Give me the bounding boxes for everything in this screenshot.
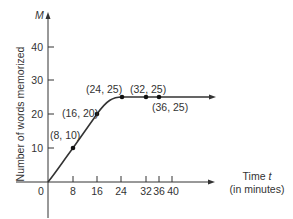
y-tick-label: 30 <box>31 74 43 86</box>
x-axis-label-t: t <box>268 170 272 182</box>
x-axis-label-time: Time <box>243 170 269 182</box>
point-label: (36, 25) <box>152 101 188 113</box>
x-axis-label: Time t <box>243 170 273 182</box>
y-tick-label: 40 <box>31 41 43 53</box>
data-point <box>157 95 162 100</box>
chart: 10 20 30 40 0 8 16 24 32 36 40 (8, 10) (… <box>0 0 293 219</box>
point-label: (24, 25) <box>86 83 122 95</box>
point-label: (8, 10) <box>50 129 80 141</box>
y-tick-label: 20 <box>31 108 43 120</box>
point-label: (32, 25) <box>130 83 166 95</box>
marked-points <box>71 95 162 151</box>
x-tick-label: 36 <box>153 185 165 197</box>
y-tick-label: 10 <box>31 142 43 154</box>
point-label: (16, 20) <box>62 107 98 119</box>
data-point <box>144 95 149 100</box>
x-tick-label: 32 <box>140 185 152 197</box>
y-axis-label: Number of words memorized <box>14 46 26 181</box>
x-ticks: 0 8 16 24 32 36 40 <box>38 176 179 197</box>
x-tick-label: 40 <box>167 185 179 197</box>
data-point <box>71 146 76 151</box>
origin-label: 0 <box>38 185 44 197</box>
curve-arrow-icon <box>209 95 216 100</box>
x-axis-arrow-icon <box>208 180 215 185</box>
x-tick-label: 24 <box>115 185 127 197</box>
data-point <box>120 95 125 100</box>
y-axis-arrow-icon <box>46 12 51 19</box>
x-axis-label-units: (in minutes) <box>230 183 285 195</box>
x-tick-label: 16 <box>91 185 103 197</box>
y-axis-symbol: M <box>35 9 44 21</box>
x-tick-label: 8 <box>70 185 76 197</box>
